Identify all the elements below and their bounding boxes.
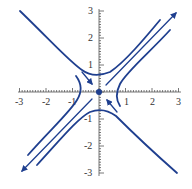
svg-text:-2: -2	[84, 140, 92, 151]
arrow-lower-right	[107, 100, 117, 112]
hyperbola-right	[117, 30, 170, 106]
svg-text:-2: -2	[42, 96, 50, 107]
unstable-manifold-upper	[106, 13, 176, 85]
unstable-manifold-lower	[22, 99, 92, 171]
svg-text:-3: -3	[84, 167, 92, 178]
equilibrium-point	[96, 89, 102, 95]
svg-text:-3: -3	[15, 96, 23, 107]
svg-text:2: 2	[150, 96, 155, 107]
hyperbola-bottom	[37, 110, 177, 173]
x-tick-labels: -3 -2 -1 1 2 3	[15, 96, 181, 107]
svg-text:1: 1	[124, 96, 129, 107]
hyperbola-left	[28, 76, 81, 155]
svg-text:3: 3	[176, 96, 181, 107]
phase-portrait: -3 -2 -1 1 2 3 3 2 1 -1 -2 -3	[0, 0, 192, 189]
svg-text:1: 1	[88, 59, 93, 70]
svg-text:2: 2	[88, 32, 93, 43]
svg-text:3: 3	[88, 5, 93, 16]
